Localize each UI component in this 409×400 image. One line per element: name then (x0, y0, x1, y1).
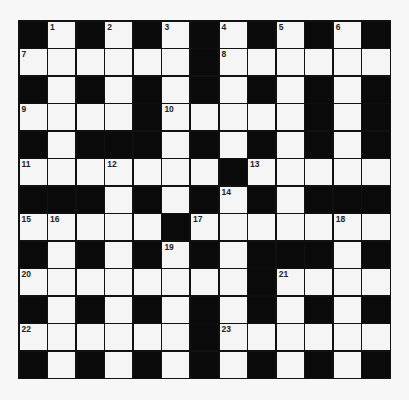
answer-cell[interactable]: 4 (220, 22, 247, 48)
answer-cell[interactable] (334, 132, 361, 158)
answer-cell[interactable] (305, 214, 332, 240)
answer-cell[interactable]: 2 (105, 22, 132, 48)
answer-cell[interactable] (277, 159, 304, 185)
answer-cell[interactable] (305, 49, 332, 75)
answer-cell[interactable] (220, 214, 247, 240)
answer-cell[interactable] (48, 324, 75, 350)
answer-cell[interactable] (105, 297, 132, 323)
answer-cell[interactable] (105, 269, 132, 295)
answer-cell[interactable] (334, 352, 361, 378)
answer-cell[interactable]: 22 (20, 324, 47, 350)
answer-cell[interactable] (77, 49, 104, 75)
answer-cell[interactable] (105, 49, 132, 75)
answer-cell[interactable] (362, 214, 389, 240)
answer-cell[interactable] (277, 187, 304, 213)
answer-cell[interactable] (77, 214, 104, 240)
answer-cell[interactable] (220, 352, 247, 378)
answer-cell[interactable] (77, 269, 104, 295)
answer-cell[interactable] (48, 352, 75, 378)
answer-cell[interactable] (162, 324, 189, 350)
answer-cell[interactable] (77, 324, 104, 350)
answer-cell[interactable] (334, 77, 361, 103)
answer-cell[interactable] (48, 242, 75, 268)
answer-cell[interactable] (334, 324, 361, 350)
answer-cell[interactable] (162, 77, 189, 103)
answer-cell[interactable] (334, 269, 361, 295)
answer-cell[interactable]: 10 (162, 104, 189, 130)
answer-cell[interactable] (248, 104, 275, 130)
answer-cell[interactable] (48, 159, 75, 185)
answer-cell[interactable]: 9 (20, 104, 47, 130)
answer-cell[interactable] (248, 49, 275, 75)
answer-cell[interactable]: 17 (191, 214, 218, 240)
answer-cell[interactable] (220, 77, 247, 103)
answer-cell[interactable]: 12 (105, 159, 132, 185)
answer-cell[interactable] (220, 104, 247, 130)
answer-cell[interactable]: 21 (277, 269, 304, 295)
answer-cell[interactable] (105, 352, 132, 378)
answer-cell[interactable] (305, 324, 332, 350)
answer-cell[interactable] (77, 104, 104, 130)
answer-cell[interactable] (105, 242, 132, 268)
answer-cell[interactable]: 11 (20, 159, 47, 185)
answer-cell[interactable] (191, 104, 218, 130)
answer-cell[interactable] (277, 324, 304, 350)
answer-cell[interactable] (305, 269, 332, 295)
answer-cell[interactable] (334, 159, 361, 185)
answer-cell[interactable] (77, 159, 104, 185)
answer-cell[interactable] (248, 214, 275, 240)
answer-cell[interactable] (334, 104, 361, 130)
answer-cell[interactable]: 13 (248, 159, 275, 185)
answer-cell[interactable] (162, 352, 189, 378)
answer-cell[interactable] (48, 77, 75, 103)
answer-cell[interactable] (162, 132, 189, 158)
answer-cell[interactable] (134, 159, 161, 185)
answer-cell[interactable] (105, 77, 132, 103)
answer-cell[interactable] (277, 77, 304, 103)
answer-cell[interactable] (191, 269, 218, 295)
answer-cell[interactable] (105, 324, 132, 350)
answer-cell[interactable] (48, 104, 75, 130)
answer-cell[interactable] (362, 159, 389, 185)
answer-cell[interactable] (48, 297, 75, 323)
answer-cell[interactable] (162, 49, 189, 75)
answer-cell[interactable] (134, 324, 161, 350)
answer-cell[interactable] (277, 297, 304, 323)
answer-cell[interactable] (334, 242, 361, 268)
answer-cell[interactable]: 14 (220, 187, 247, 213)
answer-cell[interactable] (220, 297, 247, 323)
answer-cell[interactable] (334, 297, 361, 323)
answer-cell[interactable] (105, 187, 132, 213)
answer-cell[interactable] (220, 269, 247, 295)
answer-cell[interactable] (277, 104, 304, 130)
answer-cell[interactable] (277, 214, 304, 240)
answer-cell[interactable]: 3 (162, 22, 189, 48)
answer-cell[interactable] (134, 214, 161, 240)
answer-cell[interactable]: 6 (334, 22, 361, 48)
answer-cell[interactable] (134, 49, 161, 75)
answer-cell[interactable] (277, 132, 304, 158)
answer-cell[interactable] (162, 297, 189, 323)
answer-cell[interactable] (48, 132, 75, 158)
answer-cell[interactable]: 7 (20, 49, 47, 75)
answer-cell[interactable]: 19 (162, 242, 189, 268)
answer-cell[interactable]: 5 (277, 22, 304, 48)
answer-cell[interactable]: 23 (220, 324, 247, 350)
answer-cell[interactable] (305, 159, 332, 185)
answer-cell[interactable]: 8 (220, 49, 247, 75)
answer-cell[interactable] (334, 49, 361, 75)
answer-cell[interactable] (220, 242, 247, 268)
answer-cell[interactable] (105, 214, 132, 240)
answer-cell[interactable] (362, 269, 389, 295)
answer-cell[interactable] (134, 269, 161, 295)
answer-cell[interactable]: 15 (20, 214, 47, 240)
answer-cell[interactable] (248, 324, 275, 350)
answer-cell[interactable] (220, 132, 247, 158)
answer-cell[interactable] (277, 352, 304, 378)
answer-cell[interactable] (48, 269, 75, 295)
answer-cell[interactable] (362, 49, 389, 75)
answer-cell[interactable]: 20 (20, 269, 47, 295)
answer-cell[interactable] (162, 269, 189, 295)
answer-cell[interactable] (191, 159, 218, 185)
answer-cell[interactable] (162, 159, 189, 185)
